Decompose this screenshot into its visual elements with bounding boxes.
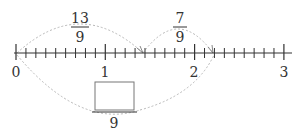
fraction-13-9-numerator: 13 [71, 10, 89, 26]
fraction-7-9-denominator: 9 [176, 29, 185, 45]
number-line-ticks [16, 44, 284, 60]
fraction-7-9: 7 9 [173, 10, 187, 45]
fraction-7-9-numerator: 7 [176, 10, 185, 26]
label-2: 2 [190, 64, 199, 80]
answer-box[interactable] [95, 82, 134, 110]
label-0: 0 [12, 64, 21, 80]
label-3: 3 [280, 64, 289, 80]
fraction-13-9: 13 9 [71, 10, 89, 45]
label-1: 1 [101, 64, 110, 80]
arrowhead-20-9 [208, 45, 213, 53]
fraction-13-9-denominator: 9 [76, 29, 85, 45]
number-line-diagram: 0 1 2 3 13 9 7 9 9 [0, 0, 301, 138]
answer-fraction: 9 [92, 82, 137, 131]
arc-0-to-20-9-lower-right [140, 55, 214, 110]
diagram-canvas: 0 1 2 3 13 9 7 9 9 [0, 0, 301, 138]
arrowhead-13-9 [137, 46, 143, 53]
answer-fraction-denominator: 9 [110, 115, 119, 131]
